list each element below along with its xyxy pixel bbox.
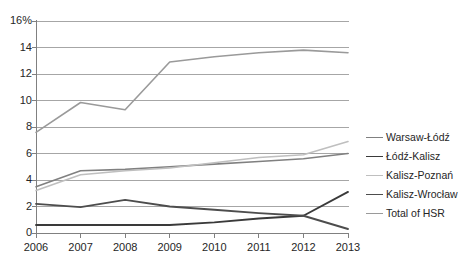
y-tick-label: 12 [0,68,32,79]
legend-swatch-line-icon [366,137,383,138]
x-tick-label: 2007 [58,242,104,253]
legend-item[interactable]: Kalisz-Poznań [366,166,465,185]
series-line-0 [36,154,348,187]
legend-label: Warsaw-Łódź [386,132,450,143]
x-tick-label: 2009 [147,242,193,253]
legend-item[interactable]: Kalisz-Wrocław [366,185,465,204]
legend-label: Kalisz-Wrocław [386,189,458,200]
legend-swatch-line-icon [366,175,383,176]
chart-legend: Warsaw-ŁódźŁódź-KaliszKalisz-PoznańKalis… [366,128,465,223]
y-tick-label: 4 [0,174,32,185]
y-tick-label: 14 [0,42,32,53]
series-line-4 [36,50,348,132]
y-tick-label: 10 [0,95,32,106]
legend-swatch-line-icon [366,213,383,214]
x-tick-label: 2012 [280,242,326,253]
legend-label: Łódź-Kalisz [386,151,440,162]
x-tick-label: 2013 [325,242,371,253]
y-tick-label: 2 [0,201,32,212]
line-chart: 0246810121416% 2006200720082009201020112… [0,0,465,267]
legend-label: Total of HSR [386,208,445,219]
x-tick-label: 2008 [102,242,148,253]
legend-item[interactable]: Łódź-Kalisz [366,147,465,166]
x-tick-label: 2010 [191,242,237,253]
legend-swatch-line-icon [366,156,383,157]
legend-item[interactable]: Warsaw-Łódź [366,128,465,147]
y-tick-label: 0 [0,227,32,238]
x-tick-label: 2011 [236,242,282,253]
legend-swatch-line-icon [366,194,383,195]
legend-item[interactable]: Total of HSR [366,204,465,223]
y-tick-label: 16% [0,15,32,26]
y-tick-label: 8 [0,121,32,132]
y-tick-label: 6 [0,148,32,159]
x-tick-label: 2006 [13,242,59,253]
legend-label: Kalisz-Poznań [386,170,453,181]
series-line-2 [36,142,348,191]
gridlines [36,21,349,233]
